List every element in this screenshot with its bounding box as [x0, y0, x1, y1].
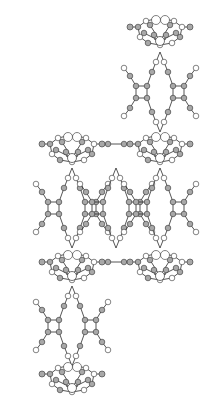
complex-lower-right [127, 251, 193, 283]
complex-bottom-left [39, 363, 105, 395]
crystal-structure-diagram [0, 0, 216, 417]
ligand-bottom-left [33, 286, 111, 366]
complex-top-right [127, 16, 193, 48]
ligand-top-right [121, 52, 199, 132]
horizontal-linkers [102, 141, 130, 265]
complex-mid-left [39, 133, 105, 165]
ligand-mid-right [121, 168, 199, 248]
complex-mid-right [127, 133, 193, 165]
complex-lower-left [39, 251, 105, 283]
ligand-mid-center [77, 168, 155, 248]
ligand-mid-left [33, 168, 111, 248]
